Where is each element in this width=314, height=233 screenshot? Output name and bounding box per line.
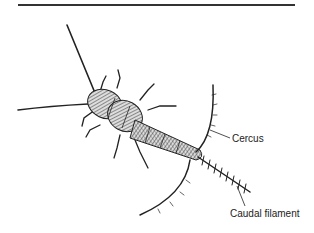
insect-body	[83, 84, 202, 160]
cercus-label: Cercus	[232, 133, 264, 144]
caudal-filament-label: Caudal filament	[230, 208, 299, 219]
antennae	[18, 25, 95, 110]
insect-illustration	[0, 0, 314, 233]
caudal-filament	[198, 156, 250, 193]
